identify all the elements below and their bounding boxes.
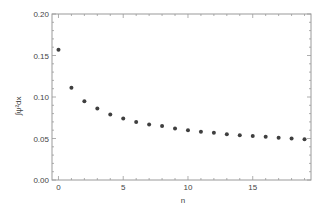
y-tick-label: 0.00 — [33, 176, 49, 185]
x-tick-label: 5 — [121, 183, 126, 192]
data-point — [290, 137, 294, 141]
y-tick-label: 0.10 — [33, 93, 49, 102]
data-point — [121, 117, 125, 121]
x-tick-label: 0 — [56, 183, 61, 192]
scatter-chart: 051015 0.000.050.100.150.20 n ∫ψ²dx — [0, 0, 327, 216]
data-point — [238, 133, 242, 137]
plot-frame — [52, 14, 311, 180]
x-tick-label: 15 — [248, 183, 257, 192]
data-point — [212, 131, 216, 135]
data-point — [303, 137, 307, 141]
axis-ticks — [52, 14, 311, 180]
data-point — [251, 134, 255, 138]
y-tick-label: 0.20 — [33, 10, 49, 19]
y-axis-label: ∫ψ²dx — [14, 96, 23, 116]
data-point — [199, 130, 203, 134]
y-tick-label: 0.05 — [33, 135, 49, 144]
x-tick-label: 10 — [184, 183, 193, 192]
data-point — [69, 86, 73, 90]
data-point — [173, 127, 177, 131]
data-point — [134, 120, 138, 124]
data-point — [56, 48, 60, 52]
data-point — [82, 99, 86, 103]
y-tick-labels: 0.000.050.100.150.20 — [33, 10, 49, 185]
x-axis-label: n — [181, 196, 185, 205]
frame-rect — [52, 14, 311, 180]
data-point — [95, 107, 99, 111]
data-point — [108, 112, 112, 116]
data-point — [277, 136, 281, 140]
y-tick-label: 0.15 — [33, 52, 49, 61]
data-point — [147, 122, 151, 126]
data-point — [225, 132, 229, 136]
data-point — [160, 124, 164, 128]
data-point — [186, 128, 190, 132]
x-tick-labels: 051015 — [56, 183, 257, 192]
data-point — [264, 135, 268, 139]
data-points — [56, 48, 306, 142]
